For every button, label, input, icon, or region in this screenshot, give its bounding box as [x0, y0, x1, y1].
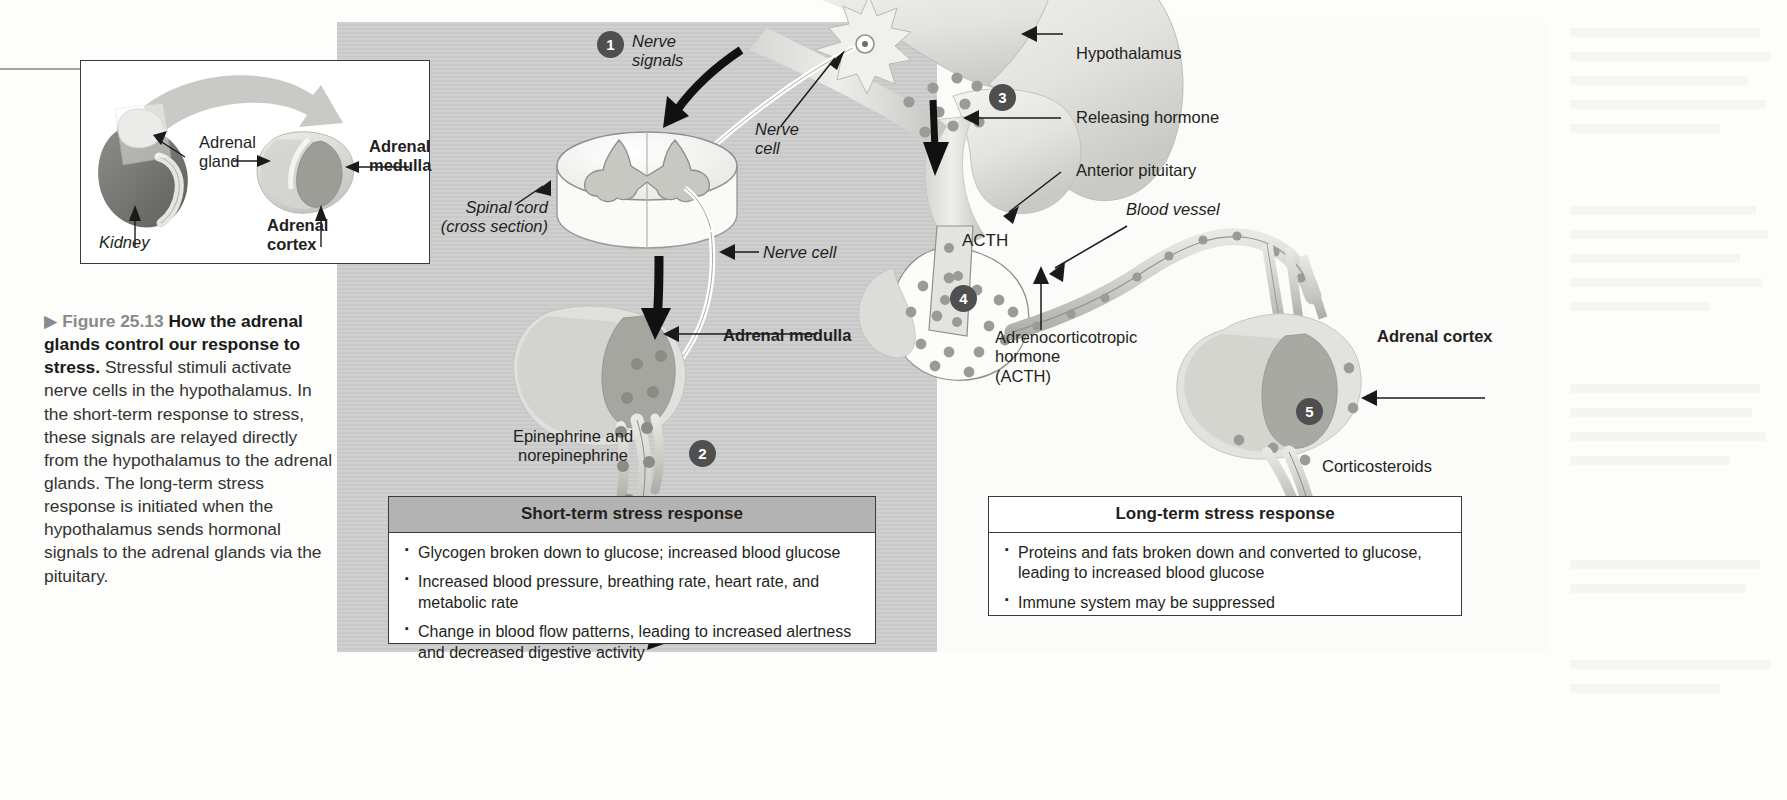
- label-blood-vessel: Blood vessel: [1126, 200, 1220, 219]
- long-term-box-body: Proteins and fats broken down and conver…: [989, 533, 1461, 627]
- step-marker-5: 5: [1296, 398, 1323, 425]
- label-nerve-cell-upper: Nerve cell: [755, 120, 799, 159]
- label-epinephrine: Epinephrine and norepinephrine: [498, 427, 648, 466]
- scan-artifact: [1570, 124, 1720, 133]
- label-acth-inline: ACTH: [962, 231, 1008, 251]
- inset-label-adrenal-gland: Adrenal gland: [199, 133, 256, 172]
- scan-artifact: [1570, 254, 1740, 263]
- adrenal-gland-inset: Adrenal gland Kidney Adrenal medulla Adr…: [80, 60, 430, 264]
- scan-artifact: [1570, 456, 1730, 465]
- page-background: Adrenal gland Kidney Adrenal medulla Adr…: [0, 0, 1787, 800]
- scan-artifact: [1570, 584, 1746, 593]
- figure-number: Figure 25.13: [62, 311, 164, 331]
- long-term-bullet-list: Proteins and fats broken down and conver…: [1005, 543, 1445, 613]
- scan-artifact: [1570, 52, 1770, 61]
- list-item: Proteins and fats broken down and conver…: [1005, 543, 1445, 584]
- step-marker-2: 2: [689, 440, 716, 467]
- inset-label-adrenal-medulla: Adrenal medulla: [369, 137, 431, 176]
- short-term-stress-response-box: Short-term stress response Glycogen brok…: [388, 496, 876, 644]
- scan-artifact: [1570, 206, 1756, 215]
- scan-artifact: [1570, 432, 1766, 441]
- scan-artifact: [1570, 560, 1760, 569]
- long-term-stress-response-box: Long-term stress response Proteins and f…: [988, 496, 1462, 616]
- scan-artifact: [1570, 684, 1720, 693]
- inset-label-kidney: Kidney: [99, 233, 149, 252]
- scan-artifact: [1570, 660, 1770, 669]
- label-adrenal-cortex: Adrenal cortex: [1377, 327, 1493, 346]
- scan-artifact: [1570, 302, 1710, 311]
- short-term-box-body: Glycogen broken down to glucose; increas…: [389, 533, 875, 677]
- scan-artifact: [1570, 100, 1766, 109]
- short-term-box-heading: Short-term stress response: [389, 497, 875, 533]
- scan-artifact: [1570, 76, 1748, 85]
- figure-caption: ▶ Figure 25.13 How the adrenal glands co…: [44, 310, 336, 588]
- label-anterior-pituitary: Anterior pituitary: [1076, 161, 1196, 180]
- list-item: Change in blood flow patterns, leading t…: [405, 622, 859, 663]
- figure-marker-icon: ▶: [44, 311, 57, 331]
- list-item: Immune system may be suppressed: [1005, 593, 1445, 613]
- scan-artifact: [1570, 384, 1760, 393]
- label-spinal-cord: Spinal cord (cross section): [418, 198, 548, 237]
- label-nerve-cell-lower: Nerve cell: [763, 243, 836, 262]
- label-hypothalamus: Hypothalamus: [1076, 44, 1181, 63]
- scan-artifact: [1570, 278, 1762, 287]
- short-term-bullet-list: Glycogen broken down to glucose; increas…: [405, 543, 859, 663]
- label-acth-full: Adrenocorticotropic hormone (ACTH): [995, 328, 1137, 386]
- scan-artifact: [1570, 408, 1752, 417]
- list-item: Increased blood pressure, breathing rate…: [405, 572, 859, 613]
- step-marker-1: 1: [597, 31, 624, 58]
- label-nerve-signals: Nerve signals: [632, 32, 683, 71]
- step-marker-3: 3: [989, 84, 1016, 111]
- inset-label-adrenal-cortex: Adrenal cortex: [267, 216, 328, 255]
- list-item: Glycogen broken down to glucose; increas…: [405, 543, 859, 563]
- figure-body: Stressful stimuli activate nerve cells i…: [44, 357, 332, 585]
- label-releasing-hormone: Releasing hormone: [1076, 108, 1219, 127]
- step-marker-4: 4: [950, 285, 977, 312]
- long-term-box-heading: Long-term stress response: [989, 497, 1461, 533]
- label-adrenal-medulla: Adrenal medulla: [723, 326, 851, 345]
- scan-artifact: [1570, 28, 1760, 37]
- label-corticosteroids: Corticosteroids: [1322, 457, 1432, 476]
- scan-artifact: [1570, 230, 1768, 239]
